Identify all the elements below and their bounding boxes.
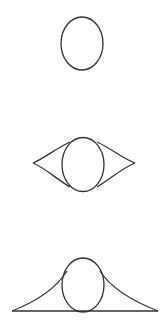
figure-ellipse-with-cusps — [33, 138, 135, 192]
bell-left-slope — [12, 271, 67, 311]
figure-ellipse-only — [61, 17, 103, 70]
diagram-svg — [0, 0, 167, 325]
ellipse-3 — [62, 258, 104, 312]
ellipse-1 — [61, 17, 103, 70]
ellipse-2 — [62, 138, 104, 192]
figure-ellipse-with-bell — [12, 258, 158, 312]
bell-right-slope — [100, 271, 158, 311]
left-lower-wing — [33, 163, 70, 187]
right-upper-wing — [97, 142, 135, 163]
diagram-canvas — [0, 0, 167, 325]
